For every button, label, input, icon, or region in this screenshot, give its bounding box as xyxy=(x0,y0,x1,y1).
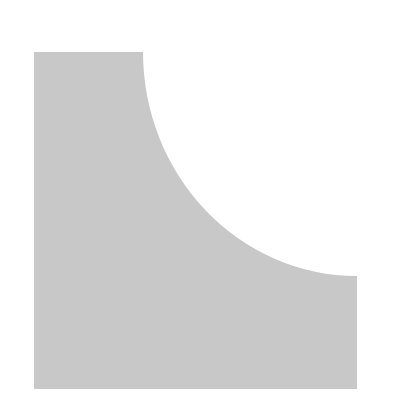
shape-canvas xyxy=(0,0,395,416)
gray-cutout-shape xyxy=(34,52,357,389)
